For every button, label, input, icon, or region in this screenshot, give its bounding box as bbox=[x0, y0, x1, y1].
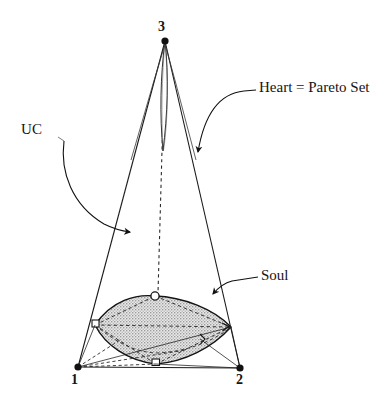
vertex-dot-2 bbox=[236, 364, 243, 371]
vertex-dot-3 bbox=[161, 37, 168, 44]
figure-canvas: 3 1 2 UC Heart = Pareto Set Soul bbox=[0, 0, 389, 403]
vertex-dot-1 bbox=[74, 363, 81, 370]
soul-marker-bottom bbox=[152, 359, 160, 366]
soul-region bbox=[92, 292, 231, 366]
ray-v2-to-soul-right bbox=[231, 327, 240, 368]
heart-crease-right-ext bbox=[176, 84, 196, 160]
vertex-label-2: 2 bbox=[236, 373, 243, 387]
uc-leader-arrow bbox=[63, 141, 130, 232]
vertex-label-3: 3 bbox=[158, 20, 165, 34]
diagram-svg bbox=[0, 0, 389, 403]
ray-v1-to-soul-left bbox=[78, 325, 95, 367]
soul-marker-left bbox=[92, 320, 99, 327]
callout-label-heart: Heart = Pareto Set bbox=[259, 80, 370, 95]
heart-leader-stub bbox=[244, 90, 256, 91]
soul-lens-shape bbox=[95, 296, 231, 364]
soul-marker-top bbox=[151, 292, 159, 300]
callout-label-soul: Soul bbox=[261, 268, 289, 283]
heart-region bbox=[131, 41, 196, 160]
uc-leader-tick bbox=[58, 137, 64, 141]
heart-leader-arrow bbox=[198, 91, 244, 152]
callout-label-uc: UC bbox=[21, 122, 42, 137]
vertex-label-1: 1 bbox=[71, 373, 78, 387]
heart-crease-left-ext bbox=[131, 84, 153, 160]
